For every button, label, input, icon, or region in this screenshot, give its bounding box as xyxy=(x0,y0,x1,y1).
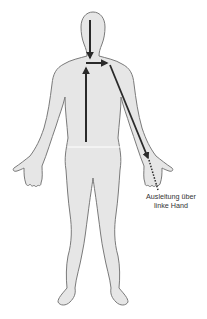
body-diagram: Ausleitung über linke Hand xyxy=(0,0,207,319)
exit-label-line2: linke Hand xyxy=(136,201,206,210)
body-silhouette xyxy=(13,12,173,305)
exit-label-line1: Ausleitung über xyxy=(136,192,206,201)
exit-label: Ausleitung über linke Hand xyxy=(136,192,206,210)
